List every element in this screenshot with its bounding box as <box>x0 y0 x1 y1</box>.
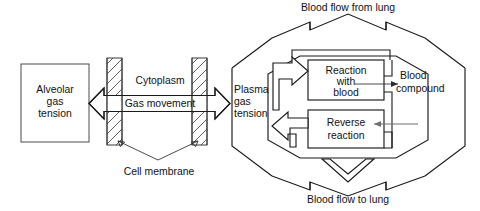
diagram-canvas: Alveolar gas tension <box>0 0 480 211</box>
blood-flow-to-lung-label: Blood flow to lung <box>307 194 389 205</box>
alveolar-label-line2: gas <box>47 96 64 107</box>
gas-movement-label: Gas movement <box>125 98 196 109</box>
cell-membrane-label: Cell membrane <box>124 166 195 177</box>
cytoplasm-label: Cytoplasm <box>135 75 184 86</box>
reverse-label-line2: reaction <box>328 130 365 141</box>
alveolar-label-line3: tension <box>38 108 72 119</box>
reaction-with-blood-box: Reaction with blood <box>308 60 384 100</box>
reaction-right-connectors <box>384 60 392 148</box>
plasma-label-line2: gas <box>234 96 251 107</box>
blood-compound-label-line1: Blood <box>400 70 427 81</box>
blood-flow-from-lung-arrow: Blood flow from lung <box>272 2 425 38</box>
cell-membrane-callout: Cell membrane <box>118 141 198 177</box>
gas-exchange-diagram: Alveolar gas tension <box>0 0 480 211</box>
plasma-label-line3: tension <box>234 108 268 119</box>
reaction-label-line2: with <box>336 76 356 87</box>
reaction-label-line1: Reaction <box>325 65 366 76</box>
reaction-top-connector <box>292 50 390 60</box>
forward-reaction-block-arrow <box>273 57 308 110</box>
alveolar-label-line1: Alveolar <box>36 84 74 95</box>
reverse-reaction-box: Reverse reaction <box>308 110 384 148</box>
reaction-label-line3: blood <box>333 87 359 98</box>
blood-flow-to-lung-arrow: Blood flow to lung <box>272 159 425 205</box>
plasma-label-line1: Plasma <box>234 84 269 95</box>
blood-flow-from-lung-label: Blood flow from lung <box>301 2 395 13</box>
blood-compound-label-group: Blood compound <box>396 70 445 94</box>
reverse-label-line1: Reverse <box>327 117 366 128</box>
blood-vessel-outline <box>232 38 465 176</box>
reverse-reaction-block-arrow <box>272 112 308 147</box>
alveolar-gas-tension-box: Alveolar gas tension <box>21 64 89 142</box>
blood-compound-in-arrow <box>374 121 418 127</box>
plasma-gas-tension-region: Plasma gas tension <box>234 84 269 119</box>
blood-compound-label-line2: compound <box>396 83 445 94</box>
